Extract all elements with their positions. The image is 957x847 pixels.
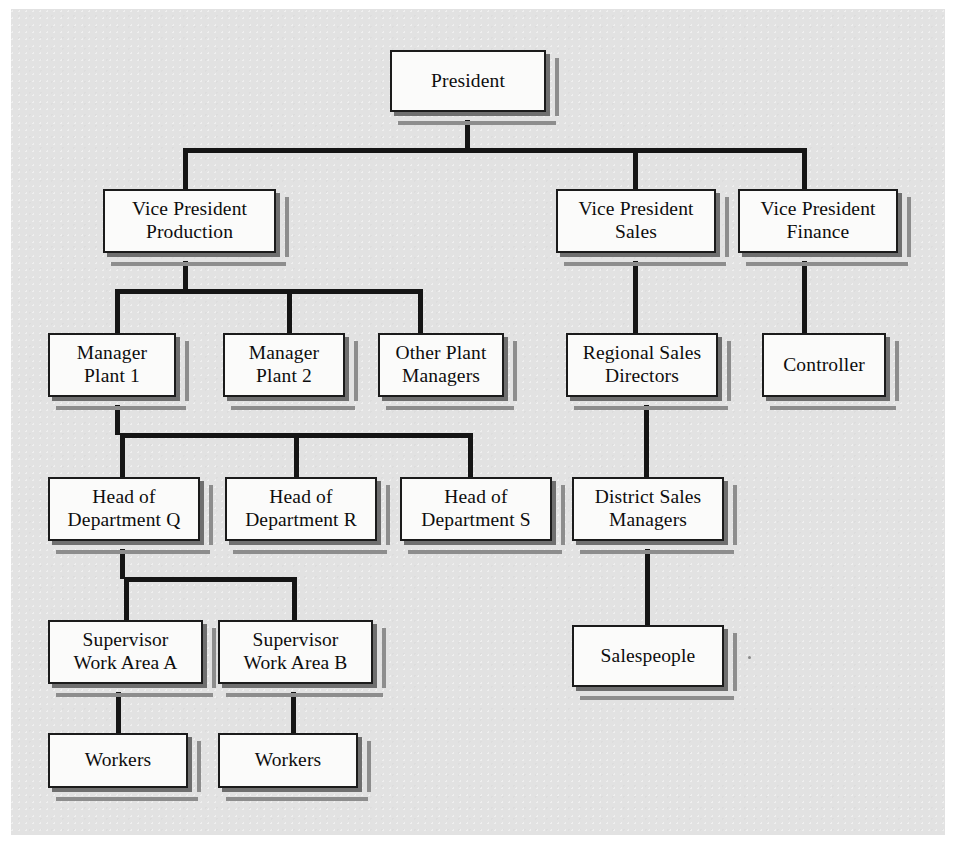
node-shadow-right-president [555, 58, 559, 116]
connector-drop-supervisor-b [292, 577, 297, 623]
org-node-label-workers-b: Workers [251, 749, 326, 772]
org-node-head-dept-q[interactable]: Head of Department Q [48, 477, 200, 541]
node-edge-right-regional-sales-directors [718, 337, 722, 401]
org-node-label-manager-plant-1: Manager Plant 1 [73, 342, 151, 387]
org-node-head-dept-r[interactable]: Head of Department R [225, 477, 377, 541]
node-shadow-right-workers-b [367, 741, 371, 792]
node-edge-right-salespeople [724, 629, 728, 691]
org-node-label-supervisor-area-b: Supervisor Work Area B [239, 629, 351, 674]
connector-supervisor-a-stem [116, 692, 121, 735]
node-shadow-right-other-plant-managers [513, 341, 517, 401]
org-node-label-regional-sales-directors: Regional Sales Directors [579, 342, 706, 387]
node-edge-right-manager-plant-1 [176, 337, 180, 401]
node-edge-bottom-head-dept-q [52, 541, 204, 545]
artifact-paper-speck [748, 656, 751, 659]
connector-president-bus [183, 148, 807, 153]
node-shadow-bottom-workers-a [56, 797, 198, 801]
org-node-controller[interactable]: Controller [762, 333, 886, 397]
node-shadow-bottom-manager-plant-2 [231, 406, 355, 410]
org-node-vp-production[interactable]: Vice President Production [103, 189, 276, 253]
node-shadow-bottom-regional-sales-directors [574, 406, 728, 410]
org-chart-canvas: PresidentVice President ProductionVice P… [0, 0, 957, 847]
org-node-supervisor-area-b[interactable]: Supervisor Work Area B [218, 620, 373, 684]
org-node-manager-plant-2[interactable]: Manager Plant 2 [223, 333, 345, 397]
node-shadow-bottom-manager-plant-1 [56, 406, 186, 410]
node-edge-right-other-plant-managers [504, 337, 508, 401]
node-shadow-right-regional-sales-directors [727, 341, 731, 401]
node-shadow-right-manager-plant-1 [185, 341, 189, 401]
node-shadow-bottom-head-dept-q [56, 550, 210, 554]
node-edge-right-district-sales-managers [724, 481, 728, 545]
org-node-workers-b[interactable]: Workers [218, 733, 358, 788]
node-shadow-bottom-supervisor-area-a [56, 693, 213, 697]
org-node-regional-sales-directors[interactable]: Regional Sales Directors [566, 333, 718, 397]
node-edge-bottom-head-dept-s [404, 541, 556, 545]
node-edge-right-manager-plant-2 [345, 337, 349, 401]
node-edge-bottom-regional-sales-directors [570, 397, 722, 401]
node-shadow-bottom-district-sales-managers [580, 550, 734, 554]
org-node-president[interactable]: President [390, 50, 546, 112]
node-edge-bottom-salespeople [576, 687, 728, 691]
chart-panel [11, 9, 945, 835]
node-edge-bottom-vp-finance [742, 253, 902, 257]
node-edge-right-workers-b [358, 737, 362, 792]
connector-regional-sales-stem [644, 405, 649, 479]
connector-supervisor-b-stem [291, 692, 296, 735]
node-shadow-right-head-dept-q [209, 485, 213, 545]
node-shadow-right-supervisor-area-b [382, 628, 386, 688]
node-edge-right-supervisor-area-a [203, 624, 207, 688]
node-edge-right-president [546, 54, 550, 116]
node-edge-right-supervisor-area-b [373, 624, 377, 688]
node-shadow-bottom-other-plant-managers [386, 406, 514, 410]
connector-drop-head-dept-q [120, 433, 125, 479]
node-edge-right-vp-sales [716, 193, 720, 257]
connector-drop-head-dept-s [468, 433, 473, 479]
org-node-other-plant-managers[interactable]: Other Plant Managers [378, 333, 504, 397]
org-node-head-dept-s[interactable]: Head of Department S [400, 477, 552, 541]
org-node-workers-a[interactable]: Workers [48, 733, 188, 788]
org-node-vp-finance[interactable]: Vice President Finance [738, 189, 898, 253]
node-shadow-right-salespeople [733, 633, 737, 691]
org-node-vp-sales[interactable]: Vice President Sales [556, 189, 716, 253]
node-edge-bottom-manager-plant-1 [52, 397, 180, 401]
node-shadow-right-workers-a [197, 741, 201, 792]
connector-drop-head-dept-r [294, 433, 299, 479]
org-node-label-vp-finance: Vice President Finance [756, 198, 879, 243]
org-node-salespeople[interactable]: Salespeople [572, 625, 724, 687]
node-shadow-bottom-vp-finance [746, 262, 908, 266]
org-node-district-sales-managers[interactable]: District Sales Managers [572, 477, 724, 541]
org-node-label-vp-production: Vice President Production [128, 198, 251, 243]
node-edge-bottom-controller [766, 397, 890, 401]
node-shadow-right-district-sales-managers [733, 485, 737, 545]
node-edge-bottom-supervisor-area-a [52, 684, 207, 688]
node-shadow-bottom-supervisor-area-b [226, 693, 383, 697]
node-shadow-right-vp-sales [725, 197, 729, 257]
org-node-supervisor-area-a[interactable]: Supervisor Work Area A [48, 620, 203, 684]
node-edge-right-vp-production [276, 193, 280, 257]
connector-drop-vp-production [183, 148, 188, 192]
node-shadow-right-manager-plant-2 [354, 341, 358, 401]
connector-drop-manager-plant-1 [115, 289, 120, 335]
connector-district-sales-stem [645, 549, 650, 627]
node-edge-bottom-vp-production [107, 253, 280, 257]
node-shadow-bottom-vp-production [111, 262, 286, 266]
node-shadow-bottom-head-dept-r [233, 550, 387, 554]
node-edge-right-vp-finance [898, 193, 902, 257]
org-node-label-manager-plant-2: Manager Plant 2 [245, 342, 323, 387]
node-shadow-bottom-president [398, 121, 556, 125]
node-shadow-bottom-workers-b [226, 797, 368, 801]
connector-vp-production-bus [115, 289, 423, 294]
org-node-label-head-dept-q: Head of Department Q [64, 486, 185, 531]
connector-vp-finance-stem [802, 261, 807, 335]
org-node-label-salespeople: Salespeople [597, 645, 700, 668]
org-node-manager-plant-1[interactable]: Manager Plant 1 [48, 333, 176, 397]
node-shadow-bottom-salespeople [580, 696, 734, 700]
connector-drop-other-plant-mgrs [418, 289, 423, 335]
node-edge-bottom-workers-a [52, 788, 192, 792]
org-node-label-head-dept-s: Head of Department S [417, 486, 535, 531]
node-shadow-bottom-vp-sales [564, 262, 726, 266]
node-shadow-right-vp-finance [907, 197, 911, 257]
connector-drop-vp-sales [633, 148, 638, 192]
node-edge-bottom-workers-b [222, 788, 362, 792]
node-edge-bottom-vp-sales [560, 253, 720, 257]
